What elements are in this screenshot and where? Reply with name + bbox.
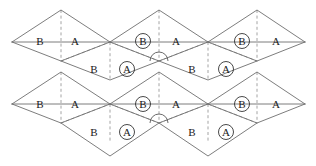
facet-label-b-circled: B	[238, 98, 245, 110]
crease-pattern-svg: B A B A B A B A B A B A B A B A	[0, 0, 316, 166]
top-row-group	[12, 10, 305, 80]
facet-label-a: A	[272, 98, 280, 110]
facet-label-a: A	[71, 98, 79, 110]
facet-label-b: B	[188, 126, 195, 138]
facet-label-b-circled: B	[139, 98, 146, 110]
facet-label-a: A	[172, 98, 180, 110]
top-upper-labels: B A B A B A	[36, 34, 280, 49]
facet-label-b: B	[36, 98, 43, 110]
bottom-row-group	[12, 72, 305, 156]
facet-label-b-circled: B	[139, 35, 146, 47]
bottom-upper-silhouette	[12, 72, 305, 104]
facet-label-b: B	[90, 126, 97, 138]
top-upper-silhouette	[12, 10, 305, 42]
facet-label-a: A	[71, 35, 79, 47]
facet-label-a-circled: A	[123, 63, 131, 75]
top-row-outline	[12, 10, 305, 80]
facet-label-a: A	[272, 35, 280, 47]
facet-label-b: B	[36, 35, 43, 47]
bottom-lower-zigzag	[12, 104, 305, 156]
facet-label-a: A	[172, 35, 180, 47]
facet-label-b: B	[188, 63, 195, 75]
facet-label-a-circled: A	[222, 126, 230, 138]
bottom-lower-labels: B A B A	[90, 125, 233, 140]
facet-label-a-circled: A	[123, 126, 131, 138]
facet-label-a-circled: A	[222, 63, 230, 75]
facet-label-b-circled: B	[238, 35, 245, 47]
crease-pattern-figure: B A B A B A B A B A B A B A B A	[0, 0, 316, 166]
facet-label-b: B	[90, 63, 97, 75]
